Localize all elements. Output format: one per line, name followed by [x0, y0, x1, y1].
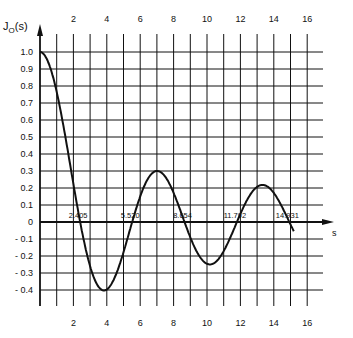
- y-tick-label: - 0.4: [15, 285, 33, 295]
- x-tick-label: 14: [269, 318, 279, 328]
- x-tick-label: 16: [302, 318, 312, 328]
- x-tick-labels-bottom: 246810121416: [71, 318, 312, 328]
- x-tick-label: 10: [202, 318, 212, 328]
- x-tick-label: 12: [235, 14, 245, 24]
- root-label: 5.520: [121, 211, 140, 220]
- x-tick-label: 2: [71, 14, 76, 24]
- x-tick-label: 6: [138, 318, 143, 328]
- y-tick-label: 1.0: [20, 47, 33, 57]
- x-tick-label: 14: [269, 14, 279, 24]
- grid: [40, 34, 323, 306]
- y-tick-label: 0.6: [20, 115, 33, 125]
- axes: [37, 24, 334, 306]
- y-tick-label: - 0.3: [15, 268, 33, 278]
- y-tick-label: 0.2: [20, 183, 33, 193]
- root-annotations: 2.4055.5208.65411.79214.931: [69, 211, 299, 220]
- y-tick-label: - 0.2: [15, 251, 33, 261]
- x-tick-label: 8: [171, 14, 176, 24]
- x-tick-label: 12: [235, 318, 245, 328]
- y-tick-label: 0.9: [20, 64, 33, 74]
- x-tick-label: 4: [104, 318, 109, 328]
- x-axis-arrow-icon: [322, 219, 334, 225]
- y-tick-label: 0.5: [20, 132, 33, 142]
- y-tick-labels: 1.00.90.80.70.60.50.40.30.20.10- 0.1- 0.…: [15, 47, 33, 295]
- root-label: 8.654: [173, 211, 192, 220]
- root-label: 14.931: [276, 211, 299, 220]
- x-tick-label: 10: [202, 14, 212, 24]
- x-tick-label: 6: [138, 14, 143, 24]
- y-tick-label: 0.4: [20, 149, 33, 159]
- y-tick-label: 0.1: [20, 200, 33, 210]
- x-tick-label: 16: [302, 14, 312, 24]
- y-tick-label: 0.3: [20, 166, 33, 176]
- x-tick-label: 2: [71, 318, 76, 328]
- root-label: 2.405: [69, 211, 88, 220]
- x-tick-label: 8: [171, 318, 176, 328]
- x-tick-labels-top: 246810121416: [71, 14, 312, 24]
- x-tick-label: 4: [104, 14, 109, 24]
- y-axis-label: JO(s): [3, 20, 28, 35]
- y-tick-label: 0: [28, 217, 33, 227]
- y-axis-arrow-icon: [37, 24, 43, 36]
- y-tick-label: 0.8: [20, 81, 33, 91]
- y-tick-label: - 0.1: [15, 234, 33, 244]
- root-label: 11.792: [224, 211, 246, 220]
- bessel-chart: 1.00.90.80.70.60.50.40.30.20.10- 0.1- 0.…: [0, 0, 353, 338]
- y-tick-label: 0.7: [20, 98, 33, 108]
- x-axis-label: s: [332, 228, 337, 238]
